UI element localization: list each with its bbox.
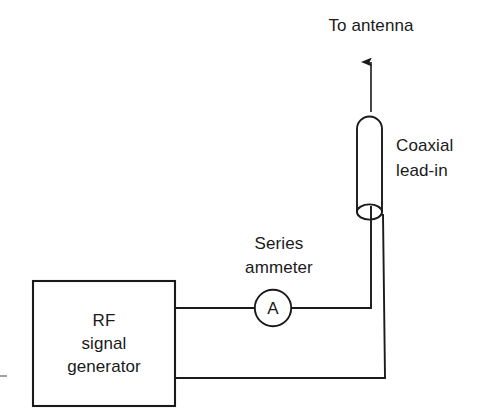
coaxial-cylinder-body: [357, 117, 382, 213]
rf-generator-label-line2: signal: [81, 332, 126, 355]
coaxial-cylinder-bottom-ellipse: [357, 204, 382, 219]
coaxial-lead-in-label-line1: Coaxial: [396, 134, 453, 157]
to-antenna-label: To antenna: [328, 14, 413, 37]
rf-generator-label-line3: generator: [67, 355, 141, 378]
series-ammeter-label-line2: ammeter: [245, 256, 313, 279]
ammeter-letter-label: A: [267, 299, 278, 319]
rf-generator-label-line1: RF: [93, 309, 116, 332]
diagram-canvas: To antenna Coaxial lead-in Series ammete…: [0, 0, 483, 418]
coaxial-lead-in-label-line2: lead-in: [396, 159, 448, 182]
series-ammeter-label-line1: Series: [255, 232, 304, 255]
